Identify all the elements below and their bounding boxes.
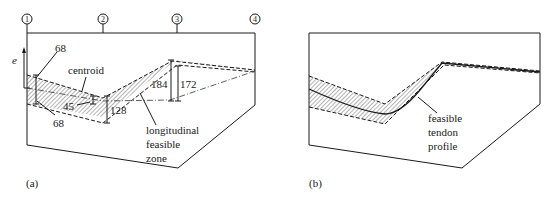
panel-b: feasible tendon profile (b): [309, 33, 540, 190]
label-45: 45: [63, 100, 75, 112]
section-marker-2: 2: [98, 14, 108, 33]
label-68-top: 68: [55, 42, 67, 54]
label-zone-2: feasible: [146, 138, 180, 150]
svg-text:1: 1: [25, 15, 29, 24]
label-184: 184: [151, 78, 168, 90]
figure-canvas: 1 2 3 4 e: [0, 0, 553, 201]
label-172: 172: [180, 78, 197, 90]
label-feasible: feasible: [428, 112, 462, 124]
label-centroid: centroid: [68, 64, 105, 76]
svg-text:2: 2: [101, 15, 105, 24]
section-marker-3: 3: [172, 14, 182, 33]
label-profile: profile: [428, 140, 457, 152]
feasible-zone-b: [309, 62, 540, 124]
label-128: 128: [110, 104, 127, 116]
svg-text:3: 3: [175, 15, 179, 24]
label-zone-3: zone: [146, 152, 167, 164]
label-zone-1: longitudinal: [146, 124, 199, 136]
label-68-bottom: 68: [53, 117, 65, 129]
svg-text:4: 4: [253, 15, 257, 24]
svg-text:e: e: [12, 54, 17, 66]
panel-a: 1 2 3 4 e: [12, 14, 260, 190]
label-tendon: tendon: [428, 126, 458, 138]
section-marker-4: 4: [250, 14, 260, 24]
panel-a-label: (a): [26, 177, 39, 190]
section-marker-1: 1: [22, 14, 32, 33]
panel-b-label: (b): [309, 177, 322, 190]
